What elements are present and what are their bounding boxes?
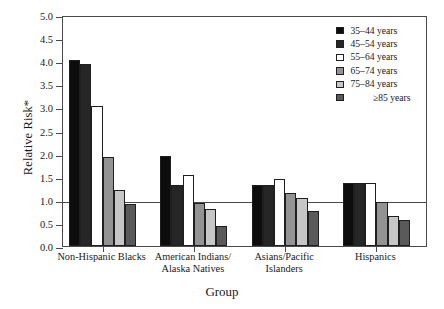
legend-label: 65–74 years [351, 66, 398, 76]
bar [343, 183, 354, 246]
y-tick-label: 5.0 [21, 11, 53, 22]
bar [376, 202, 387, 246]
legend-item[interactable]: 55–64 years [336, 51, 428, 64]
y-tick-label: 3.5 [21, 80, 53, 91]
legend: 35–44 years45–54 years55–64 years65–74 y… [336, 24, 428, 104]
bar [388, 216, 399, 246]
legend-swatch-icon [336, 54, 344, 62]
bar [205, 209, 216, 246]
y-tick-mark [56, 179, 63, 180]
y-tick-label: 3.0 [21, 103, 53, 114]
legend-swatch-icon [336, 27, 344, 35]
bar [103, 157, 114, 246]
legend-item[interactable]: 75–84 years [336, 78, 428, 91]
legend-swatch-icon [336, 40, 344, 48]
bar [125, 204, 136, 246]
y-tick-label: 4.0 [21, 57, 53, 68]
y-tick-mark [56, 17, 63, 18]
bar [171, 185, 182, 246]
y-tick-mark [56, 63, 63, 64]
legend-label: 45–54 years [351, 39, 398, 49]
chart-figure: Relative Risk* 0.00.51.01.52.02.53.03.54… [0, 0, 444, 309]
y-tick-label: 2.5 [21, 127, 53, 138]
y-tick-label: 0.5 [21, 219, 53, 230]
y-tick-label: 1.5 [21, 173, 53, 184]
bar [69, 60, 80, 246]
bar [285, 193, 296, 246]
bar [80, 64, 91, 246]
legend-label: 75–84 years [351, 79, 398, 89]
y-tick-label: 4.5 [21, 34, 53, 45]
bar [194, 203, 205, 246]
bar [252, 185, 263, 246]
bar [308, 211, 319, 246]
legend-label: 35–44 years [351, 26, 398, 36]
y-tick-label: 2.0 [21, 150, 53, 161]
bar [399, 220, 410, 246]
bar [160, 156, 171, 246]
y-tick-mark [56, 109, 63, 110]
legend-item[interactable]: 45–54 years [336, 37, 428, 50]
legend-item[interactable]: 65–74 years [336, 64, 428, 77]
y-tick-mark [56, 202, 63, 203]
y-tick-mark [56, 40, 63, 41]
legend-swatch-icon [336, 81, 344, 89]
bar [263, 185, 274, 246]
x-axis-title: Group [0, 284, 444, 300]
bar [114, 190, 125, 246]
y-tick-mark [56, 225, 63, 226]
bar [216, 226, 227, 246]
x-axis-label: Hispanics [315, 251, 435, 263]
y-tick-mark [56, 86, 63, 87]
y-tick-label: 1.0 [21, 196, 53, 207]
y-tick-mark [56, 156, 63, 157]
legend-swatch-icon [336, 67, 344, 75]
bar [365, 183, 376, 246]
bar [183, 175, 194, 246]
bar [296, 198, 307, 246]
legend-label: ≥85 years [351, 93, 411, 103]
legend-item[interactable]: ≥85 years [336, 91, 428, 104]
y-tick-mark [56, 133, 63, 134]
legend-label: 55–64 years [351, 52, 398, 62]
bar [354, 183, 365, 246]
y-tick-mark [56, 248, 63, 249]
x-axis-label-line: Hispanics [315, 251, 435, 263]
x-axis-label-line: Islanders [224, 263, 344, 275]
legend-item[interactable]: 35–44 years [336, 24, 428, 37]
bar [91, 106, 102, 246]
legend-swatch-icon [336, 94, 344, 102]
bar [274, 179, 285, 246]
